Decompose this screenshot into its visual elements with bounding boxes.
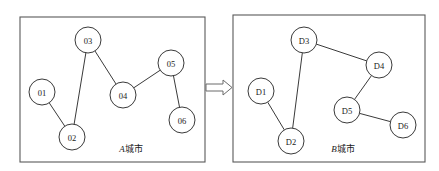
diagram-figure: 010203040506 A城市 D1D2D3D4D5D6 B城市 — [0, 0, 439, 171]
graph-node[interactable]: D2 — [278, 128, 304, 154]
node-label: D4 — [374, 61, 385, 71]
node-label: 05 — [167, 59, 176, 69]
transform-arrow-group — [206, 80, 232, 95]
node-label: 01 — [38, 88, 47, 98]
diagram-canvas: 010203040506 A城市 D1D2D3D4D5D6 B城市 — [0, 0, 439, 171]
node-label: 04 — [119, 91, 128, 101]
graph-node[interactable]: 04 — [110, 82, 136, 108]
node-label: 06 — [178, 116, 187, 126]
graph-node[interactable]: 05 — [158, 50, 184, 76]
panel-a-group: 010203040506 A城市 — [20, 17, 205, 162]
caption-suffix: 城市 — [125, 143, 143, 154]
node-label: D3 — [299, 36, 309, 46]
node-label: D1 — [256, 87, 266, 97]
node-label: 03 — [84, 36, 93, 46]
graph-node[interactable]: 03 — [75, 27, 101, 53]
node-label: 02 — [68, 133, 77, 143]
graph-node[interactable]: D5 — [334, 97, 360, 123]
node-label: D5 — [342, 106, 352, 116]
node-label: D2 — [286, 137, 296, 147]
graph-node[interactable]: D4 — [366, 52, 392, 78]
graph-node[interactable]: D3 — [291, 27, 317, 53]
panel-a-caption: A城市 — [118, 143, 143, 154]
graph-node[interactable]: 06 — [169, 107, 195, 133]
graph-node[interactable]: 02 — [59, 124, 85, 150]
caption-suffix: 城市 — [337, 143, 355, 154]
panel-b-group: D1D2D3D4D5D6 B城市 — [233, 15, 425, 162]
panel-b-caption: B城市 — [331, 143, 355, 154]
node-label: D6 — [398, 121, 408, 131]
graph-node[interactable]: D1 — [248, 78, 274, 104]
transform-arrow-icon — [206, 80, 232, 95]
graph-node[interactable]: 01 — [29, 79, 55, 105]
graph-node[interactable]: D6 — [390, 112, 416, 138]
